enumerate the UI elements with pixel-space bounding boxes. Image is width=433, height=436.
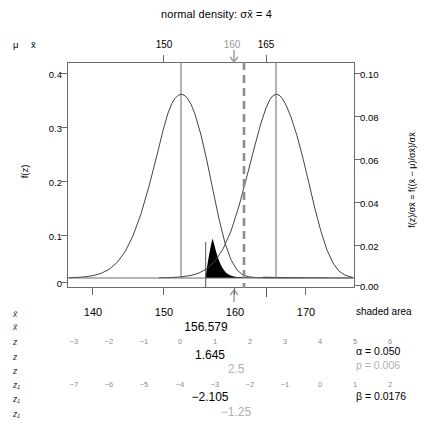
z1-scale-tick--7: −7 — [61, 380, 87, 389]
top-tick-label-150: 150 — [142, 39, 186, 50]
z1-scale-tick--1: −1 — [272, 380, 298, 389]
z-scale-tick--1: −1 — [131, 337, 157, 346]
y-right-tick-0.04: 0.04 — [360, 198, 406, 209]
row-label-z-2: z — [13, 352, 17, 362]
z1-scale-tick-1: 1 — [342, 380, 368, 389]
z1-scale-tick--2: −2 — [237, 380, 263, 389]
y-right-tick-0.06: 0.06 — [360, 155, 406, 166]
y2-tick-mark-0.02 — [355, 245, 361, 246]
y2-tick-mark-0.06 — [355, 159, 361, 160]
top-row-label-mu: μ — [13, 39, 18, 50]
z1-critical-value: −2.105 — [150, 390, 270, 404]
p-value: p = 0.006 — [356, 359, 400, 371]
y-left-tick-0.1: 0.1 — [22, 231, 62, 242]
z-scale-tick-2: 2 — [237, 337, 263, 346]
y-right-tick-0.08: 0.08 — [360, 112, 406, 123]
y2-tick-mark-0.00 — [355, 285, 361, 286]
row-label-z1-3: z₁ — [13, 409, 20, 419]
z-scale-tick--3: −3 — [61, 337, 87, 346]
chart-root: normal density: σx̄ = 4 μ x̄ 150 160 165… — [0, 0, 433, 436]
y-left-tick-0: 0 — [22, 278, 62, 289]
y2-tick-mark-0.08 — [355, 116, 361, 117]
critical-xbar-value: 156.579 — [146, 320, 266, 334]
z1-scale-tick--5: −5 — [131, 380, 157, 389]
observed-arrow-down-icon — [227, 50, 241, 64]
z-scale-tick-4: 4 — [307, 337, 333, 346]
y-tick-mark-0 — [61, 282, 67, 283]
bottom-tick-mark-165 — [266, 288, 267, 297]
top-tick-label-165: 165 — [244, 39, 288, 50]
y-tick-mark-0.3 — [61, 127, 67, 128]
y-left-tick-0.4: 0.4 — [22, 69, 62, 80]
top-tick-mark-165 — [266, 55, 267, 63]
density-plot — [67, 62, 355, 288]
top-tick-mark-150 — [163, 55, 164, 63]
chart-title: normal density: σx̄ = 4 — [0, 8, 433, 20]
row-label-z1-2: z₁ — [13, 394, 20, 404]
y-tick-mark-0.1 — [61, 235, 67, 236]
z1-scale-tick--4: −4 — [167, 380, 193, 389]
z1-scale-tick--6: −6 — [96, 380, 122, 389]
y-left-tick-0.3: 0.3 — [22, 123, 62, 134]
row-label-z1-1: z₁ — [13, 380, 20, 390]
z1-observed-value: −1.25 — [176, 405, 296, 419]
z-scale-tick--2: −2 — [96, 337, 122, 346]
y-right-tick-0.00: 0.00 — [360, 281, 406, 292]
z1-scale-tick-2: 2 — [377, 380, 403, 389]
row-label-z-3: z — [13, 366, 17, 376]
z-scale-tick-0: 0 — [167, 337, 193, 346]
xbar-value-140: 140 — [80, 306, 106, 318]
top-row-label-xbar: x̄ — [31, 39, 36, 50]
y-axis-right-label: f(z)/σx̄ = f((x̄ − μ)/σx̄)/σx̄ — [407, 120, 417, 240]
y-axis-left-label: f(z) — [19, 142, 30, 202]
row-label-xbar-1: x̄ — [13, 309, 17, 319]
z-scale-tick-3: 3 — [272, 337, 298, 346]
shaded-area-header: shaded area — [356, 306, 412, 317]
xbar-value-160: 160 — [222, 306, 248, 318]
y2-tick-mark-0.10 — [355, 73, 361, 74]
xbar-value-170: 170 — [293, 306, 319, 318]
bottom-tick-mark-140 — [92, 288, 93, 295]
beta-value: β = 0.0176 — [356, 390, 406, 402]
z1-scale-tick-0: 0 — [307, 380, 333, 389]
y-tick-mark-0.4 — [61, 73, 67, 74]
xbar-value-150: 150 — [151, 306, 177, 318]
y-right-tick-0.10: 0.10 — [360, 69, 406, 80]
z1-scale-tick--3: −3 — [202, 380, 228, 389]
y-tick-mark-0.2 — [61, 181, 67, 182]
row-label-z-1: z — [13, 337, 17, 347]
bottom-tick-mark-170 — [305, 288, 306, 295]
z-critical-value: 1.645 — [150, 348, 270, 362]
y-right-tick-0.02: 0.02 — [360, 241, 406, 252]
bottom-tick-mark-160 — [234, 288, 235, 295]
y2-tick-mark-0.04 — [355, 202, 361, 203]
curve-alternative-density — [159, 94, 353, 278]
bottom-tick-mark-150 — [163, 288, 164, 295]
z-observed-value: 2.5 — [176, 362, 296, 376]
row-label-xbar-2: x̄ — [13, 322, 17, 332]
alpha-value: α = 0.050 — [356, 345, 400, 357]
z-scale-tick-1: 1 — [202, 337, 228, 346]
